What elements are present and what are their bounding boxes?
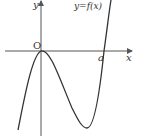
root-a-label: a xyxy=(98,52,104,63)
function-curve xyxy=(18,0,111,130)
x-axis-label: x xyxy=(126,52,132,63)
function-label: y=f(x) xyxy=(73,1,103,11)
origin-label: O xyxy=(33,40,41,51)
y-axis-label: y xyxy=(32,0,39,10)
function-graph: y x O a y=f(x) xyxy=(0,0,141,137)
